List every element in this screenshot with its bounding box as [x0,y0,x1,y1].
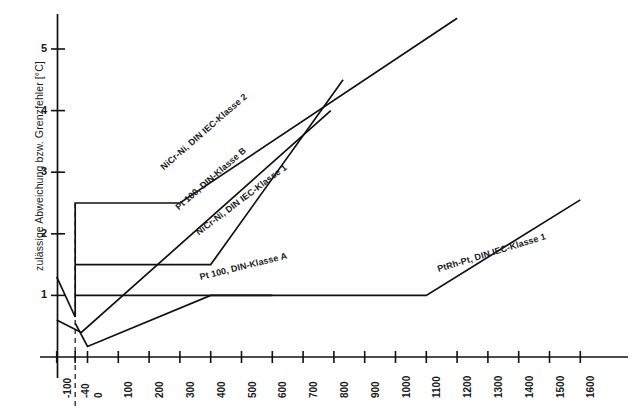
x-tick-label: 800 [339,381,350,398]
x-tick-label: -40 [80,384,91,398]
x-tick-label: 700 [308,381,319,398]
x-tick-label: 600 [277,381,288,398]
x-tick-label: 400 [216,381,227,398]
x-tick-label: 1500 [555,376,566,398]
x-tick-label: 100 [123,381,134,398]
x-tick-label: 1100 [431,376,442,398]
x-tick-label: 500 [247,381,258,398]
x-tick-label: -100 [62,378,73,398]
x-tick-label: 1300 [493,376,504,398]
chart-plot-area [0,0,636,418]
y-tick-label: 5 [31,42,47,54]
x-tick-label: 1600 [585,376,596,398]
x-tick-label: 1200 [462,376,473,398]
series-line [75,200,580,347]
x-tick-label: 1000 [401,376,412,398]
y-tick-label: 2 [31,227,47,239]
y-tick-label: 4 [31,104,47,116]
chart-container: zulässige Abweichung bzw. Grenzfehler [°… [0,0,636,418]
x-tick-label: 200 [154,381,165,398]
series-line [57,18,457,317]
y-tick-label: 1 [31,288,47,300]
x-tick-label: 0 [93,392,104,398]
y-tick-label: 3 [31,165,47,177]
x-tick-label: 1400 [524,376,535,398]
x-tick-label: 900 [370,381,381,398]
x-tick-label: 300 [185,381,196,398]
